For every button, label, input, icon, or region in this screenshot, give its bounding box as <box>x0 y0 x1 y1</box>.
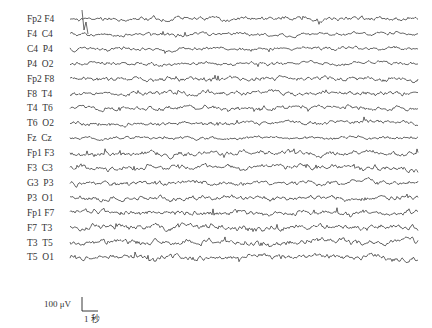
channel-label: Fp1 F7 <box>27 208 54 218</box>
channel-label: Fp2 F8 <box>27 74 54 84</box>
eeg-trace <box>70 163 418 172</box>
eeg-plot <box>0 0 432 328</box>
channel-label: P3 O1 <box>27 193 53 203</box>
channel-label: T5 O1 <box>27 252 54 262</box>
channel-label: T4 T6 <box>27 103 53 113</box>
channel-label: C4 P4 <box>27 44 53 54</box>
artifact-spike <box>82 10 88 34</box>
channel-label: F7 T3 <box>27 223 52 233</box>
eeg-trace <box>70 31 418 37</box>
channel-label: P4 O2 <box>27 59 53 69</box>
eeg-trace <box>70 136 418 141</box>
channel-label: T3 T5 <box>27 238 53 248</box>
amplitude-scale-label: 100 μV <box>44 299 71 309</box>
eeg-trace <box>70 89 418 96</box>
eeg-trace <box>70 16 418 25</box>
channel-label: F3 C3 <box>27 163 53 173</box>
eeg-trace <box>70 75 418 83</box>
eeg-trace <box>70 194 418 202</box>
eeg-trace <box>70 208 418 217</box>
channel-label: Fp2 F4 <box>27 14 54 24</box>
scale-bar <box>82 297 98 311</box>
eeg-trace <box>70 237 418 247</box>
channel-label: G3 P3 <box>27 178 53 188</box>
channel-label: Fz Cz <box>27 133 52 143</box>
eeg-trace <box>70 105 418 112</box>
eeg-trace <box>70 178 418 188</box>
eeg-trace <box>70 117 418 127</box>
eeg-trace <box>70 223 418 232</box>
channel-label: T6 O2 <box>27 118 54 128</box>
time-scale-label: 1 秒 <box>84 312 100 325</box>
eeg-trace <box>70 60 418 66</box>
eeg-trace <box>70 46 418 53</box>
channel-label: F8 T4 <box>27 89 52 99</box>
eeg-trace <box>70 252 418 263</box>
channel-label: F4 C4 <box>27 29 53 39</box>
eeg-trace <box>70 149 418 159</box>
channel-label: Fp1 F3 <box>27 148 54 158</box>
